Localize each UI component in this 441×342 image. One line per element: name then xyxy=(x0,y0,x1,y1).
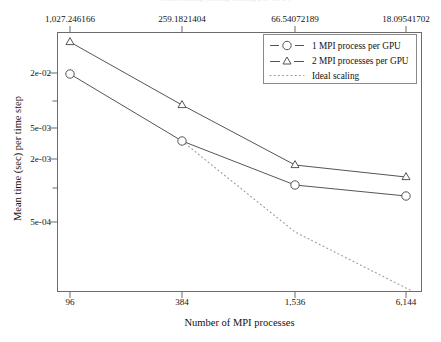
legend-label-ideal: Ideal scaling xyxy=(312,71,359,81)
circle-icon xyxy=(268,38,306,53)
triangle-icon xyxy=(268,53,306,68)
legend-label-2mpi: 2 MPI processes per GPU xyxy=(312,56,409,66)
x-axis-ticks xyxy=(70,292,406,299)
x-axis-title: Number of MPI processes xyxy=(57,317,422,328)
legend-item-1mpi: 1 MPI process per GPU xyxy=(264,38,416,53)
dotted-line-icon xyxy=(268,68,306,83)
chart-legend: 1 MPI process per GPU 2 MPI processes pe… xyxy=(263,34,417,84)
legend-label-1mpi: 1 MPI process per GPU xyxy=(312,41,401,51)
legend-item-2mpi: 2 MPI processes per GPU xyxy=(264,53,416,68)
chart-figure: weak scaling (strong scaling per GPU) 1,… xyxy=(0,0,441,342)
y-axis-title: Mean time (sec) per time step xyxy=(12,79,23,239)
y-axis-ticks xyxy=(50,73,58,222)
top-axis-ticks xyxy=(70,26,406,33)
legend-item-ideal: Ideal scaling xyxy=(264,68,416,83)
